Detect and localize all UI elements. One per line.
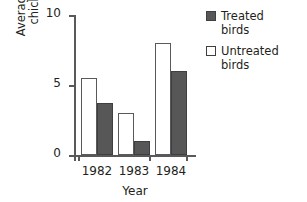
bar-chart-figure: Average number of chicks per nest 0 5 10	[0, 0, 307, 202]
x-tick-mark-end	[186, 155, 188, 161]
bar-1983-treated[interactable]	[134, 141, 150, 155]
y-tick-10: 10	[69, 15, 75, 17]
x-tick-mark-a	[74, 155, 76, 161]
y-tick-label-5: 5	[53, 77, 61, 89]
y-tick-label-0: 0	[53, 147, 61, 159]
legend-item-treated[interactable]: Treated birds	[206, 9, 304, 37]
x-axis-line	[74, 155, 196, 157]
y-tick-5: 5	[69, 85, 75, 87]
legend-item-untreated[interactable]: Untreated birds	[206, 44, 304, 72]
y-tick-label-10: 10	[46, 7, 61, 19]
x-tick-label-1984: 1984	[149, 165, 193, 177]
bar-1984-untreated[interactable]	[155, 43, 171, 155]
legend-swatch-treated-icon	[206, 11, 216, 21]
legend-label-untreated-line-2: birds	[221, 58, 249, 72]
x-axis-title: Year	[74, 185, 196, 197]
y-axis-title-line-2: chicks per nest	[28, 0, 41, 25]
legend-label-treated: Treated birds	[221, 9, 264, 37]
bar-1984-treated[interactable]	[171, 71, 187, 155]
legend: Treated birds Untreated birds	[206, 9, 304, 79]
x-tick-mark-start	[78, 155, 80, 161]
y-axis-title: Average number of chicks per nest	[8, 0, 48, 54]
legend-swatch-untreated-icon	[206, 46, 216, 56]
x-tick-mark-b	[149, 155, 151, 161]
plot-area: 0 5 10 1982 1983 1984 Year	[74, 15, 196, 157]
legend-label-treated-line-2: birds	[221, 23, 249, 37]
legend-label-treated-line-1: Treated	[221, 9, 264, 23]
legend-label-untreated: Untreated birds	[221, 44, 279, 72]
bar-1982-untreated[interactable]	[81, 78, 97, 155]
bar-1983-untreated[interactable]	[118, 113, 134, 155]
legend-label-untreated-line-1: Untreated	[221, 44, 279, 58]
bar-1982-treated[interactable]	[97, 103, 113, 155]
